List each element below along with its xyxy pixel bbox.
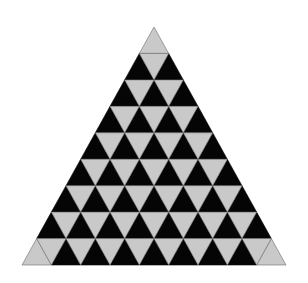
triangle-diagram — [0, 0, 308, 283]
triangular-grid — [0, 0, 308, 283]
corner-triangle — [139, 27, 168, 53]
